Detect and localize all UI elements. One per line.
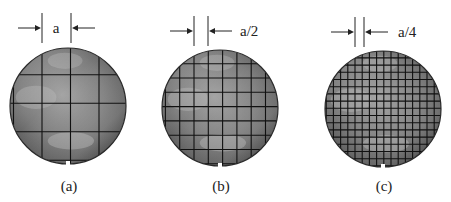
- panel-a: a(a): [0, 13, 126, 195]
- figure-canvas: a(a)a/2(b)a/4(c): [0, 0, 451, 202]
- dimension-label: a: [53, 20, 60, 36]
- panel-caption: (a): [61, 178, 78, 195]
- panel-c: a/4(c): [319, 17, 441, 195]
- dimension-annotation-c: [331, 17, 388, 47]
- panel-caption: (b): [212, 178, 230, 195]
- dimension-label: a/4: [398, 24, 417, 40]
- panel-caption: (c): [376, 178, 393, 195]
- wafer-notch-a: [66, 161, 70, 165]
- dimension-annotation-b: [170, 16, 232, 46]
- wafer-notch-b: [218, 163, 222, 167]
- dimension-label: a/2: [240, 23, 258, 39]
- wafer-notch-c: [381, 164, 385, 168]
- wafer-die-size-figure: a(a)a/2(b)a/4(c) (a) a (b) a/2 (c) a/4: [0, 0, 451, 202]
- panel-b: a/2(b): [151, 16, 278, 195]
